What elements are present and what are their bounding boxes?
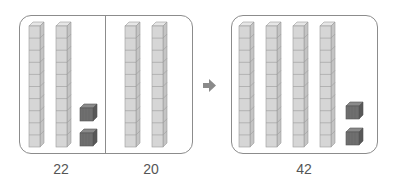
ten-rod: [293, 22, 308, 147]
value-label-20: 20: [131, 161, 171, 177]
right-arrow-icon: [203, 79, 216, 92]
ten-rod: [125, 22, 140, 147]
unit-cube: [346, 102, 363, 119]
ten-rod: [239, 22, 254, 147]
section-20-blocks: [125, 22, 167, 147]
result-42-blocks: [239, 22, 363, 147]
unit-cube: [80, 129, 97, 146]
unit-cube: [80, 104, 97, 121]
value-label-22: 22: [41, 161, 81, 177]
ten-rod: [152, 22, 167, 147]
ten-rod: [266, 22, 281, 147]
section-22-blocks: [29, 22, 97, 147]
unit-cube: [346, 128, 363, 145]
ten-rod: [320, 22, 335, 147]
value-label-42: 42: [284, 161, 324, 177]
ten-rod: [29, 22, 44, 147]
ten-rod: [56, 22, 71, 147]
